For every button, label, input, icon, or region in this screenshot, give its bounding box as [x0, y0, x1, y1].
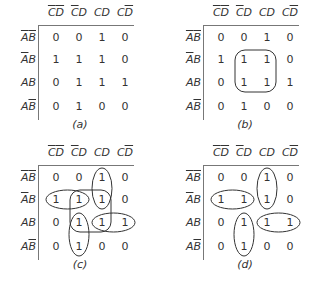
karnaugh-map-d: CDCDCDCDABABABAB0010111001110100(d): [165, 140, 325, 280]
grouping-loops: [0, 140, 160, 280]
grouping-loops: [165, 0, 325, 140]
grouping-loop: [234, 213, 254, 256]
grouping-loop: [92, 168, 112, 209]
grouping-loop: [211, 190, 254, 209]
grouping-loop: [257, 168, 277, 209]
grouping-loop: [69, 213, 89, 256]
grouping-loop: [257, 213, 300, 232]
grouping-loop: [92, 213, 135, 232]
karnaugh-map-b: CDCDCDCDABABABAB0010111001110100(b): [165, 0, 325, 140]
grouping-loops: [165, 140, 325, 280]
grouping-loops: [0, 0, 160, 140]
grouping-loop: [46, 190, 89, 209]
grouping-loop: [235, 50, 276, 92]
grouping-loop: [70, 190, 111, 232]
karnaugh-map-a: CDCDCDCDABABABAB0010111001110100(a): [0, 0, 160, 140]
karnaugh-map-c: CDCDCDCDABABABAB0010111001110100(c): [0, 140, 160, 280]
